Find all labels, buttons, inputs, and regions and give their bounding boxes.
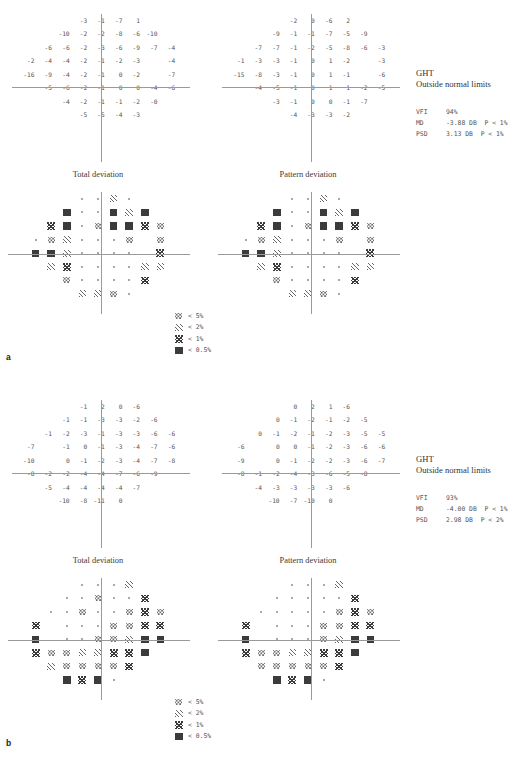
numeric-row: -10-8-110 bbox=[8, 495, 188, 509]
numeric-cell: -1 bbox=[282, 31, 300, 37]
deviation-symbol-p2 bbox=[47, 263, 55, 270]
numeric-cell bbox=[370, 404, 388, 410]
symbol-cell bbox=[28, 192, 44, 206]
symbol-row bbox=[8, 592, 188, 606]
symbol-cell bbox=[106, 605, 122, 619]
symbol-cell bbox=[316, 660, 332, 674]
deviation-symbol-p05 bbox=[175, 733, 183, 740]
deviation-symbol-n bbox=[291, 584, 293, 586]
deviation-symbol-p2 bbox=[367, 263, 375, 270]
numeric-cell bbox=[54, 112, 72, 118]
deviation-symbol-p5 bbox=[320, 623, 327, 629]
legend-item: < 5% bbox=[175, 310, 211, 322]
deviation-symbol-p05 bbox=[141, 209, 149, 216]
numeric-cell: -2 bbox=[317, 444, 335, 450]
numeric-row: -15-8-3-101-1 -6 bbox=[218, 68, 398, 82]
numeric-cell: -6 bbox=[334, 404, 352, 410]
deviation-symbol-p1 bbox=[78, 676, 86, 684]
symbol-cell bbox=[59, 287, 75, 301]
symbol-cell bbox=[285, 192, 301, 206]
deviation-symbol-p05 bbox=[63, 676, 71, 683]
deviation-symbol-n bbox=[323, 597, 325, 599]
numeric-row: -8-1-2-4-3-6-5-8 bbox=[218, 468, 398, 482]
deviation-symbol-n bbox=[307, 279, 309, 281]
deviation-symbol-p2 bbox=[63, 236, 71, 243]
deviation-symbol-p5 bbox=[157, 609, 164, 615]
numeric-cell: 0 bbox=[107, 72, 125, 78]
horizontal-axis bbox=[8, 254, 190, 255]
numeric-cell: -15 bbox=[229, 72, 247, 78]
symbol-cell bbox=[43, 619, 59, 633]
symbol-cell bbox=[347, 192, 363, 206]
deviation-symbol-p2 bbox=[47, 663, 55, 670]
numeric-cell bbox=[124, 498, 142, 504]
vertical-axis bbox=[101, 192, 102, 314]
numeric-cell bbox=[19, 31, 37, 37]
deviation-symbol-p2 bbox=[110, 195, 118, 202]
numeric-cell bbox=[36, 112, 54, 118]
panel-b-total-deviation-numeric: -120-6 -1-1-3-3-2-6 -1-2-3-1-3-3-6-6-7 -… bbox=[8, 400, 188, 508]
deviation-symbol-n bbox=[113, 597, 115, 599]
deviation-symbol-p2 bbox=[289, 649, 297, 656]
numeric-cell: -4 bbox=[124, 444, 142, 450]
stat-row-md: MD-4.00 DB P < 1% bbox=[416, 505, 520, 513]
numeric-cell: -3 bbox=[72, 431, 90, 437]
symbol-cell bbox=[153, 192, 169, 206]
numeric-cell: -4 bbox=[160, 45, 178, 51]
legend-label: < 0.5% bbox=[188, 346, 211, 354]
symbol-cell bbox=[363, 260, 379, 274]
symbol-cell bbox=[238, 287, 254, 301]
symbol-cell bbox=[106, 660, 122, 674]
stat-row-psd: PSD2.98 DB P < 2% bbox=[416, 516, 520, 524]
symbol-cell bbox=[59, 260, 75, 274]
numeric-cell: -11 bbox=[89, 498, 107, 504]
deviation-symbol-p5 bbox=[157, 237, 164, 243]
probability-legend: < 5%< 2%< 1%< 0.5% bbox=[175, 696, 211, 742]
deviation-symbol-n bbox=[338, 266, 340, 268]
stat-value: 3.13 DB P < 1% bbox=[446, 130, 504, 138]
symbol-cell bbox=[347, 233, 363, 247]
numeric-cell bbox=[160, 498, 178, 504]
symbol-row bbox=[8, 287, 188, 301]
numeric-cell: -7 bbox=[264, 45, 282, 51]
symbol-cell bbox=[363, 206, 379, 220]
deviation-symbol-n bbox=[81, 625, 83, 627]
deviation-symbol-p1 bbox=[242, 622, 250, 630]
numeric-row: -1-1-3-3-2-6 bbox=[8, 414, 188, 428]
numeric-cell: -3 bbox=[107, 431, 125, 437]
numeric-cell: -2 bbox=[54, 431, 72, 437]
numeric-cell: -6 bbox=[352, 444, 370, 450]
symbol-cell bbox=[137, 605, 153, 619]
numeric-row: -8-2-2-4-4-7-6-9 bbox=[8, 468, 188, 482]
numeric-cell: -9 bbox=[264, 31, 282, 37]
symbol-cell bbox=[300, 646, 316, 660]
symbol-cell bbox=[316, 219, 332, 233]
numeric-cell: 0 bbox=[264, 458, 282, 464]
symbol-cell bbox=[137, 219, 153, 233]
symbol-cell bbox=[121, 233, 137, 247]
numeric-cell: -5 bbox=[36, 485, 54, 491]
deviation-symbol-n bbox=[276, 597, 278, 599]
numeric-cell: -2 bbox=[107, 58, 125, 64]
symbol-cell bbox=[300, 660, 316, 674]
numeric-cell: -1 bbox=[107, 99, 125, 105]
deviation-symbol-n bbox=[307, 611, 309, 613]
deviation-symbol-p2 bbox=[125, 209, 133, 216]
deviation-symbol-p5 bbox=[336, 609, 343, 615]
legend-item: < 5% bbox=[175, 696, 211, 708]
symbol-cell bbox=[153, 287, 169, 301]
numeric-cell bbox=[54, 404, 72, 410]
deviation-symbol-n bbox=[291, 198, 293, 200]
stat-row-vfi: VFI93% bbox=[416, 494, 520, 502]
symbol-row bbox=[8, 233, 188, 247]
symbol-cell bbox=[90, 233, 106, 247]
panel-b-pattern-deviation-symbols bbox=[218, 578, 398, 687]
numeric-cell: -9 bbox=[124, 45, 142, 51]
symbol-cell bbox=[43, 192, 59, 206]
numeric-cell: -6 bbox=[54, 45, 72, 51]
symbol-cell bbox=[106, 619, 122, 633]
symbol-cell bbox=[347, 646, 363, 660]
symbol-cell bbox=[331, 206, 347, 220]
numeric-cell: -1 bbox=[54, 417, 72, 423]
symbol-cell bbox=[238, 206, 254, 220]
